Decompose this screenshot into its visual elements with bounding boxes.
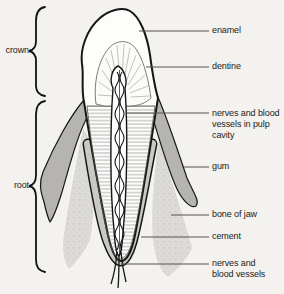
label-root: root xyxy=(7,180,29,191)
label-pulp-vessels: nerves and blood vessels in pulp cavity xyxy=(212,108,282,141)
diagram-canvas xyxy=(0,0,284,294)
label-cement: cement xyxy=(212,231,282,242)
label-crown: crown xyxy=(3,45,29,56)
label-gum: gum xyxy=(212,161,282,172)
label-dentine: dentine xyxy=(212,61,282,72)
label-enamel: enamel xyxy=(212,25,282,36)
crown-bracket xyxy=(29,7,45,96)
label-bone-of-jaw: bone of jaw xyxy=(212,209,282,220)
tooth-diagram: crown root enamel dentine nerves and blo… xyxy=(0,0,284,294)
label-root-vessels: nerves and blood vessels xyxy=(212,258,282,280)
